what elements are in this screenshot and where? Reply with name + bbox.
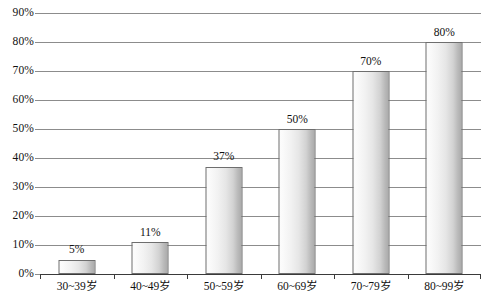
bar-value-label: 80% xyxy=(434,27,455,39)
y-axis-tick-label: 0% xyxy=(0,268,34,280)
x-axis-tick-label: 30~39岁 xyxy=(40,279,114,293)
y-axis-tick-label: 90% xyxy=(0,7,34,19)
bar[interactable] xyxy=(352,71,389,274)
y-axis-tick-mark xyxy=(35,71,40,72)
bar[interactable] xyxy=(279,129,316,274)
x-axis-tick-label: 40~49岁 xyxy=(114,279,188,293)
y-axis-tick-label: 80% xyxy=(0,36,34,48)
x-axis-tick-label: 50~59岁 xyxy=(187,279,261,293)
y-axis-tick-mark xyxy=(35,245,40,246)
y-axis-tick-mark xyxy=(35,158,40,159)
bar-chart: 5%11%37%50%70%80% 0%10%20%30%40%50%60%70… xyxy=(0,0,490,299)
x-axis-labels: 30~39岁40~49岁50~59岁60~69岁70~79岁80~99岁 xyxy=(40,279,481,297)
bar-value-label: 37% xyxy=(213,151,234,163)
x-axis-tick-label: 60~69岁 xyxy=(261,279,335,293)
x-axis-tick-label: 80~99岁 xyxy=(408,279,482,293)
y-axis-tick-label: 40% xyxy=(0,152,34,164)
y-axis-tick-mark xyxy=(35,42,40,43)
y-axis-tick-mark xyxy=(35,216,40,217)
bar[interactable] xyxy=(58,260,95,275)
y-axis-tick-mark xyxy=(35,187,40,188)
bar[interactable] xyxy=(426,42,463,274)
y-axis-tick-mark xyxy=(35,129,40,130)
bar-slot: 50% xyxy=(261,13,335,274)
bar-series: 5%11%37%50%70%80% xyxy=(40,13,481,274)
bar-slot: 11% xyxy=(114,13,188,274)
bar-slot: 37% xyxy=(187,13,261,274)
y-axis-tick-label: 70% xyxy=(0,65,34,77)
bar-value-label: 70% xyxy=(360,56,381,68)
bar-slot: 5% xyxy=(40,13,114,274)
x-axis-tick-label: 70~79岁 xyxy=(334,279,408,293)
plot-area: 5%11%37%50%70%80% xyxy=(40,13,481,274)
bar-value-label: 5% xyxy=(69,244,84,256)
y-axis-tick-label: 30% xyxy=(0,181,34,193)
bar[interactable] xyxy=(132,242,169,274)
bar[interactable] xyxy=(205,167,242,274)
y-axis-tick-label: 60% xyxy=(0,94,34,106)
y-axis-tick-mark xyxy=(35,13,40,14)
bar-value-label: 11% xyxy=(140,227,161,239)
y-axis-tick-label: 20% xyxy=(0,210,34,222)
y-axis-tick-label: 10% xyxy=(0,239,34,251)
bar-value-label: 50% xyxy=(287,114,308,126)
y-axis-tick-label: 50% xyxy=(0,123,34,135)
y-axis-tick-mark xyxy=(35,100,40,101)
bar-slot: 80% xyxy=(408,13,482,274)
bar-slot: 70% xyxy=(334,13,408,274)
